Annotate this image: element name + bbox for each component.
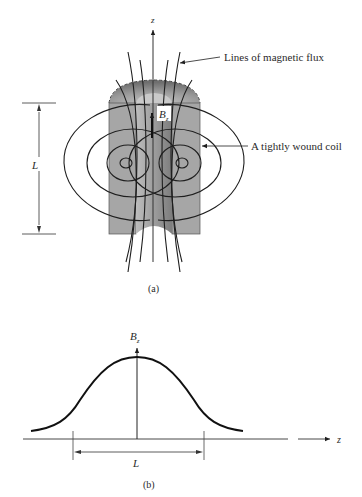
caption-a: (a) xyxy=(148,283,159,295)
caption-b: (b) xyxy=(143,479,155,491)
length-label-b: L xyxy=(132,457,139,469)
length-dimension-a: L xyxy=(22,103,56,234)
z-axis-label-b: z xyxy=(336,434,341,445)
diagram-canvas: z Bz Lines of magnetic flux A tightly wo… xyxy=(0,0,362,497)
flux-leader-line xyxy=(180,57,220,63)
z-axis-label: z xyxy=(150,15,155,25)
coil-annotation: A tightly wound coil xyxy=(251,140,342,152)
bz-axis-label: Bz xyxy=(130,330,140,345)
length-label-a: L xyxy=(31,159,38,171)
solenoid-body xyxy=(109,103,200,234)
flux-annotation: Lines of magnetic flux xyxy=(224,51,324,63)
length-dimension-b: L xyxy=(73,431,204,469)
figure-a: z Bz Lines of magnetic flux A tightly wo… xyxy=(22,15,342,295)
figure-b: z Bz L (b) xyxy=(23,330,341,491)
